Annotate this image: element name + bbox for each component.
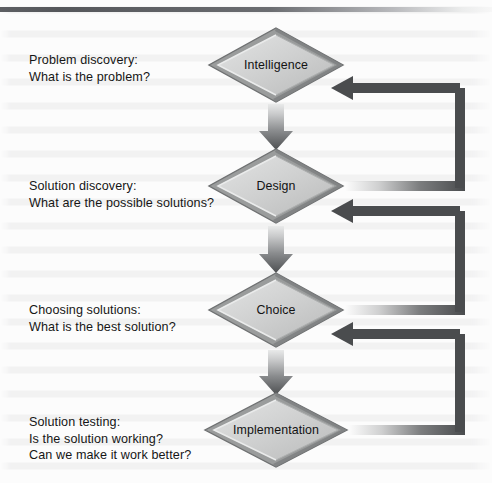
diamond-shape-implementation (203, 391, 349, 469)
node-design[interactable]: Design (207, 147, 345, 225)
caption-line: Solution testing: (29, 415, 120, 429)
caption-line: Problem discovery: (29, 53, 138, 67)
feedback-loop-implementation-to-choice (331, 322, 465, 435)
caption-line: Can we make it work better? (29, 448, 191, 462)
caption-line: Solution discovery: (29, 179, 137, 193)
caption-line: What are the possible solutions? (29, 196, 214, 210)
node-choice[interactable]: Choice (207, 271, 345, 349)
caption-design: Solution discovery:What are the possible… (29, 178, 214, 211)
node-intelligence[interactable]: Intelligence (207, 26, 345, 104)
caption-intelligence: Problem discovery:What is the problem? (29, 52, 150, 85)
caption-line: What is the problem? (29, 70, 150, 84)
caption-implementation: Solution testing:Is the solution working… (29, 414, 191, 464)
caption-line: Choosing solutions: (29, 303, 141, 317)
caption-line: Is the solution working? (29, 432, 163, 446)
forward-arrow-intelligence-to-design (259, 104, 293, 150)
diamond-shape-intelligence (207, 26, 345, 104)
diamond-shape-choice (207, 271, 345, 349)
caption-line: What is the best solution? (29, 320, 176, 334)
feedback-loop-design-to-intelligence (331, 76, 465, 191)
forward-arrow-choice-to-implementation (259, 350, 293, 395)
diagram-canvas: Intelligence Design Choice (0, 0, 492, 483)
forward-arrow-design-to-choice (259, 226, 293, 273)
feedback-loop-choice-to-design (331, 199, 465, 315)
diamond-shape-design (207, 147, 345, 225)
node-implementation[interactable]: Implementation (203, 391, 349, 469)
caption-choice: Choosing solutions:What is the best solu… (29, 302, 176, 335)
